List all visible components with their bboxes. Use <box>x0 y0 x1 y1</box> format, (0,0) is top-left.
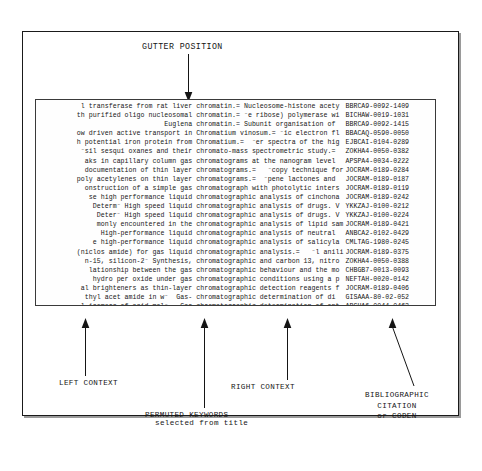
kwic-keyword-and-right-context: chromatographic detection reagents f <box>196 284 345 293</box>
kwic-keyword-and-right-context: chromatographic conditions using a p <box>196 275 345 284</box>
kwic-bibliographic-citation: YKKZAJ-0100-0212 <box>345 202 435 211</box>
kwic-left-context: l transferase from rat liver <box>36 102 196 111</box>
kwic-left-context: se high performance liquid <box>36 193 196 202</box>
kwic-bibliographic-citation: BBRCA9-0092-1409 <box>345 102 435 111</box>
gutter-position-arrow <box>184 54 193 102</box>
kwic-keyword-and-right-context: Chromatium.= ⁻er spectra of the hig <box>196 138 345 147</box>
kwic-row: th purified oligo nucleosomalchromatin.=… <box>36 111 435 120</box>
kwic-index-listing: l transferase from rat liverchromatin.= … <box>35 99 436 306</box>
kwic-keyword-and-right-context: chromatographic analysis of drugs. V <box>196 211 345 220</box>
kwic-left-context: hydro per oxide under gas <box>36 275 196 284</box>
kwic-left-context: Determ⁻ High speed liquid <box>36 202 196 211</box>
kwic-bibliographic-citation: NEFTAH-0020-0142 <box>345 275 435 284</box>
kwic-keyword-and-right-context: chromatin.= ⁻e ribose) polymerase wi <box>196 111 345 120</box>
kwic-bibliographic-citation: BBRCA9-0092-1415 <box>345 120 435 129</box>
kwic-bibliographic-citation: JOCRAM-0189-0284 <box>345 166 435 175</box>
kwic-keyword-and-right-context: Chromatium vinosum.= ⁻ic electron fl <box>196 129 345 138</box>
kwic-bibliographic-citation: ZOKHA4-0050-0388 <box>345 257 435 266</box>
kwic-keyword-and-right-context: chromato-mass spectrometric study.= <box>196 147 345 156</box>
kwic-row: onstruction of a simple gaschromatograph… <box>36 184 435 193</box>
kwic-row: (niclos amide) for gas liquidchromatogra… <box>36 248 435 257</box>
kwic-row: Euglenachromatin.= Subunit organisation … <box>36 120 435 129</box>
kwic-left-context: ow driven active transport in <box>36 129 196 138</box>
kwic-row: Deter⁻ High speed liquidchromatographic … <box>36 211 435 220</box>
kwic-row: hydro per oxide under gaschromatographic… <box>36 275 435 284</box>
kwic-bibliographic-citation: CMLTAG-1980-0245 <box>345 238 435 247</box>
left-context-callout-arrow <box>81 318 90 376</box>
kwic-left-context: onstruction of a simple gas <box>36 184 196 193</box>
kwic-row: e high-performance liquidchromatographic… <box>36 238 435 247</box>
kwic-keyword-and-right-context: chromatographic analysis of cinchona <box>196 193 345 202</box>
kwic-row: documentation of thin layerchromatograms… <box>36 166 435 175</box>
kwic-left-context: h potential iron protein from <box>36 138 196 147</box>
kwic-bibliographic-citation: EJBCAI-0104-0289 <box>345 138 435 147</box>
kwic-row: l transferase from rat liverchromatin.= … <box>36 102 435 111</box>
kwic-left-context: poly acetylenes on thin layer <box>36 175 196 184</box>
kwic-left-context: documentation of thin layer <box>36 166 196 175</box>
kwic-bibliographic-citation: JOCRAM-0189-0242 <box>345 193 435 202</box>
kwic-row: monly encountered in thechromatographic … <box>36 220 435 229</box>
bibliographic-citation-callout-arrow <box>388 318 397 386</box>
kwic-row: n-15, silicon-2⁻ Synthesis,chromatograph… <box>36 257 435 266</box>
bibliographic-citation-label: BIBLIOGRAPHIC CITATION or CODEN <box>349 390 445 422</box>
kwic-bibliographic-citation: ABCHA6-0044-0463 <box>345 302 435 306</box>
kwic-keyword-and-right-context: chromatographic analysis of lipid sam <box>196 220 345 229</box>
kwic-left-context: lationship between the gas <box>36 266 196 275</box>
kwic-rows: l transferase from rat liverchromatin.= … <box>36 102 435 306</box>
permuted-keywords-label-line1: PERMUTED KEYWORDS <box>145 411 285 419</box>
right-context-label: RIGHT CONTEXT <box>231 383 295 391</box>
kwic-left-context: (niclos amide) for gas liquid <box>36 248 196 257</box>
gutter-position-label: GUTTER POSITION <box>142 42 223 51</box>
kwic-keyword-and-right-context: chromatographic determination of opt <box>196 302 345 306</box>
kwic-keyword-and-right-context: chromatographic analysis of neutral <box>196 229 345 238</box>
kwic-left-context: al brighteners as thin-layer <box>36 284 196 293</box>
kwic-left-context: thyl acet amide in w⁻ Gas- <box>36 293 196 302</box>
kwic-keyword-and-right-context: chromatographic analysis of drugs. V <box>196 202 345 211</box>
kwic-bibliographic-citation: ANBCA2-0102-0429 <box>345 229 435 238</box>
kwic-keyword-and-right-context: chromatographic and carbon 13, nitro <box>196 257 345 266</box>
kwic-row: ow driven active transport inChromatium … <box>36 129 435 138</box>
kwic-bibliographic-citation: JOCRAM-0189-0406 <box>345 284 435 293</box>
kwic-keyword-and-right-context: chromatographic analysis of salicyla <box>196 238 345 247</box>
kwic-row: thyl acet amide in w⁻ Gas-chromatographi… <box>36 293 435 302</box>
kwic-bibliographic-citation: BBACAQ-0590-0050 <box>345 129 435 138</box>
kwic-keyword-and-right-context: chromatograms.= ⁻copy technique for <box>196 166 345 175</box>
kwic-keyword-and-right-context: chromatograms.= ⁻pene lactones and <box>196 175 345 184</box>
kwic-left-context: High-performance liquid <box>36 229 196 238</box>
kwic-keyword-and-right-context: chromatin.= Nucleosome-histone acety <box>196 102 345 111</box>
kwic-row: al brighteners as thin-layerchromatograp… <box>36 284 435 293</box>
permuted-keywords-label-line2: selected from title <box>145 419 285 427</box>
kwic-keyword-and-right-context: chromatographic analysis.= ⁻l anili <box>196 248 345 257</box>
kwic-keyword-and-right-context: chromatin.= Subunit organisation of <box>196 120 345 129</box>
biblio-label-line2: CITATION <box>349 401 445 412</box>
kwic-row: se high performance liquidchromatographi… <box>36 193 435 202</box>
biblio-label-line1: BIBLIOGRAPHIC <box>349 390 445 401</box>
left-context-label: LEFT CONTEXT <box>59 379 118 387</box>
kwic-bibliographic-citation: CHBGB7-0013-0093 <box>345 266 435 275</box>
kwic-left-context: Deter⁻ High speed liquid <box>36 211 196 220</box>
kwic-bibliographic-citation: GISAAA-80-02-052 <box>345 293 435 302</box>
kwic-left-context: monly encountered in the <box>36 220 196 229</box>
kwic-left-context: Euglena <box>36 120 196 129</box>
kwic-left-context: th purified oligo nucleosomal <box>36 111 196 120</box>
kwic-row: High-performance liquidchromatographic a… <box>36 229 435 238</box>
kwic-keyword-and-right-context: chromatographic determination of di <box>196 293 345 302</box>
kwic-left-context: ⁻sil sesqui oxanes and their <box>36 147 196 156</box>
kwic-bibliographic-citation: YKKZAJ-0100-0224 <box>345 211 435 220</box>
kwic-left-context: n-15, silicon-2⁻ Synthesis, <box>36 257 196 266</box>
kwic-bibliographic-citation: JOCRAM-0189-0119 <box>345 184 435 193</box>
kwic-row: h potential iron protein fromChromatium.… <box>36 138 435 147</box>
kwic-keyword-and-right-context: chromatograph with photolytic inters <box>196 184 345 193</box>
biblio-label-line3: or CODEN <box>349 411 445 422</box>
kwic-row: poly acetylenes on thin layerchromatogra… <box>36 175 435 184</box>
kwic-row: lationship between the gaschromatographi… <box>36 266 435 275</box>
right-context-callout-arrow <box>283 318 292 380</box>
kwic-row: aks in capillary column gaschromatograms… <box>36 157 435 166</box>
kwic-bibliographic-citation: ZOKHA4-0050-0382 <box>345 147 435 156</box>
kwic-keyword-and-right-context: chromatograms at the nanogram level <box>196 157 345 166</box>
kwic-bibliographic-citation: BICHAW-0019-1031 <box>345 111 435 120</box>
kwic-bibliographic-citation: JOCRAM-0189-0421 <box>345 220 435 229</box>
kwic-row: Determ⁻ High speed liquidchromatographic… <box>36 202 435 211</box>
kwic-row: l isomers of acid mol⁻ Gaschromatographi… <box>36 302 435 306</box>
permuted-keywords-label: PERMUTED KEYWORDS selected from title <box>145 411 285 427</box>
